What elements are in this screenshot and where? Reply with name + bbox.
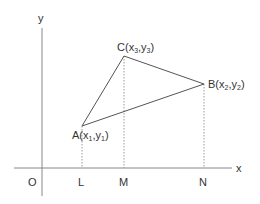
- foot-label-M: M: [119, 176, 128, 188]
- point-C-label: C(x3,y3): [117, 41, 154, 54]
- origin-label: O: [28, 176, 37, 188]
- point-B-name: B: [208, 78, 215, 90]
- coordinate-diagram: y x O L M N A(x1,y1) C(x3,y3) B(x2,y2): [0, 0, 260, 204]
- x-axis-label: x: [236, 162, 242, 174]
- triangle-ABC: [82, 56, 204, 126]
- point-C-name: C: [117, 41, 125, 53]
- foot-label-N: N: [199, 176, 207, 188]
- point-A-label: A(x1,y1): [72, 129, 109, 142]
- point-B-label: B(x2,y2): [208, 78, 245, 91]
- y-axis-label: y: [38, 12, 44, 24]
- foot-label-L: L: [78, 176, 84, 188]
